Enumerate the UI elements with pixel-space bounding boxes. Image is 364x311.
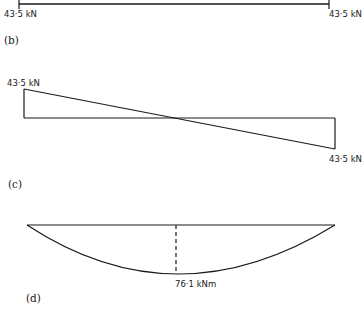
- panel-c-caption: (c): [8, 178, 22, 190]
- right-reaction-label: 43·5 kN: [329, 9, 362, 19]
- panel-d-moment-diagram: 76·1 kNm (d): [26, 225, 335, 304]
- shear-diagonal: [24, 89, 335, 149]
- moment-parabola: [27, 225, 335, 274]
- max-moment-label: 76·1 kNm: [175, 279, 216, 289]
- panel-c-shear-diagram: 43·5 kN 43·5 kN (c): [7, 78, 362, 190]
- structural-diagram: 43·5 kN 43·5 kN (b) 43·5 kN 43·5 kN (c) …: [0, 0, 364, 311]
- panel-b-beam: 43·5 kN 43·5 kN (b): [4, 0, 362, 46]
- shear-right-label: 43·5 kN: [329, 154, 362, 164]
- panel-d-caption: (d): [26, 292, 41, 304]
- shear-left-label: 43·5 kN: [7, 78, 40, 88]
- panel-b-caption: (b): [4, 34, 19, 46]
- left-reaction-label: 43·5 kN: [4, 9, 37, 19]
